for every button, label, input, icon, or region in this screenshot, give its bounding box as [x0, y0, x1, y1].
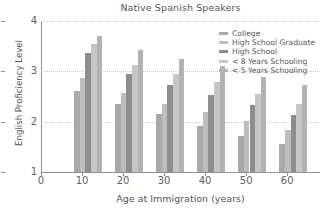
legend-label: < 5 Years Schooling	[232, 66, 307, 75]
x-tick-label: 50	[231, 175, 261, 186]
x-tick-mark	[123, 172, 124, 176]
legend-swatch	[219, 50, 228, 53]
y-tick-label: 4	[9, 15, 37, 26]
x-tick-mark	[82, 172, 83, 176]
y-tick-label: 2	[9, 116, 37, 127]
y-tick-mark	[1, 172, 5, 173]
bar	[97, 36, 103, 172]
legend-swatch	[219, 32, 228, 35]
legend-label: High School Graduate	[232, 38, 315, 47]
legend-item: < 5 Years Schooling	[219, 66, 327, 75]
legend-swatch	[219, 60, 228, 63]
chart-title: Native Spanish Speakers	[41, 2, 320, 13]
x-tick-mark	[205, 172, 206, 176]
x-tick-label: 20	[108, 175, 138, 186]
x-tick-label: 10	[67, 175, 97, 186]
x-tick-label: 40	[190, 175, 220, 186]
bar	[220, 66, 226, 172]
gridline	[41, 21, 320, 22]
y-tick-mark	[1, 122, 5, 123]
x-tick-label: 30	[149, 175, 179, 186]
x-tick-mark	[41, 172, 42, 176]
x-tick-mark	[164, 172, 165, 176]
x-tick-label: 0	[26, 175, 56, 186]
x-tick-label: 60	[272, 175, 302, 186]
bar	[261, 77, 267, 172]
x-tick-mark	[246, 172, 247, 176]
y-tick-label: 3	[9, 65, 37, 76]
legend-item: High School	[219, 47, 327, 56]
bar	[138, 50, 144, 172]
bar	[302, 85, 308, 172]
legend-label: < 8 Years Schooling	[232, 57, 307, 66]
legend-label: College	[232, 29, 260, 38]
y-tick-mark	[1, 21, 5, 22]
legend-item: College	[219, 29, 327, 38]
bar	[179, 59, 185, 172]
legend-swatch	[219, 41, 228, 44]
legend-label: High School	[232, 47, 277, 56]
chart-figure: Native Spanish Speakers English Proficie…	[0, 0, 330, 209]
x-tick-mark	[287, 172, 288, 176]
legend-item: High School Graduate	[219, 38, 327, 47]
legend-item: < 8 Years Schooling	[219, 57, 327, 66]
chart-legend: CollegeHigh School GraduateHigh School< …	[219, 29, 327, 75]
y-tick-mark	[1, 71, 5, 72]
legend-swatch	[219, 69, 228, 72]
x-axis-label: Age at Immigration (years)	[41, 193, 320, 204]
